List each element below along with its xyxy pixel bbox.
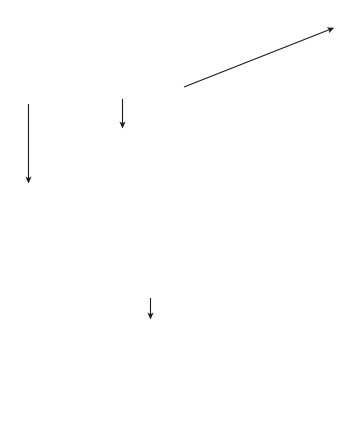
top-bar-chart (0, 0, 358, 226)
top-chart-axis-labels (0, 196, 358, 212)
bottom-bar-chart (0, 230, 358, 426)
bottom-chart-plot-area (0, 230, 358, 426)
top-chart-plot-area (0, 0, 358, 195)
